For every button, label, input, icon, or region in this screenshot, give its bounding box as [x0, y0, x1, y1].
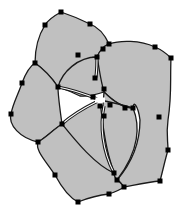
control-point[interactable] [169, 56, 174, 61]
control-point[interactable] [9, 112, 14, 117]
control-point[interactable] [43, 23, 48, 28]
control-point[interactable] [33, 61, 38, 66]
control-point[interactable] [20, 81, 25, 86]
control-point[interactable] [56, 85, 61, 90]
control-point[interactable] [76, 200, 81, 205]
control-point[interactable] [107, 42, 112, 47]
control-point[interactable] [157, 115, 162, 120]
control-point[interactable] [60, 122, 65, 127]
control-point[interactable] [88, 22, 93, 27]
control-point[interactable] [59, 10, 64, 15]
control-point[interactable] [123, 106, 128, 111]
control-point[interactable] [112, 171, 117, 176]
control-point[interactable] [131, 106, 136, 111]
control-point[interactable] [91, 95, 96, 100]
control-point[interactable] [95, 55, 100, 60]
control-point[interactable] [158, 179, 163, 184]
control-point[interactable] [101, 47, 106, 52]
control-point[interactable] [108, 103, 113, 108]
control-point[interactable] [115, 178, 120, 183]
control-point[interactable] [53, 173, 58, 178]
control-point[interactable] [102, 87, 107, 92]
control-point[interactable] [122, 185, 127, 190]
control-point[interactable] [93, 76, 98, 81]
control-point[interactable] [76, 53, 81, 58]
control-point[interactable] [166, 148, 171, 153]
control-point[interactable] [107, 192, 112, 197]
control-point[interactable] [36, 140, 41, 145]
control-point[interactable] [98, 104, 103, 109]
petal-diagram [0, 0, 179, 208]
control-point[interactable] [102, 114, 107, 119]
control-point[interactable] [153, 45, 158, 50]
